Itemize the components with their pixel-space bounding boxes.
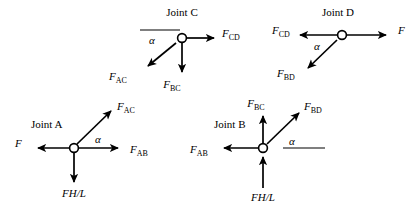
joint-a-angle-label: α: [95, 133, 101, 145]
joint-d-node: [338, 31, 347, 40]
joint-c-label-fac: FAC: [108, 70, 127, 85]
joint-a-group: Joint A α F FAB FAC FH/L: [14, 100, 148, 199]
joint-a-title: Joint A: [31, 118, 63, 130]
joint-b-label-fhl: FH/L: [250, 191, 275, 203]
joint-b-label-fbd: FBD: [303, 100, 322, 115]
joint-a-label-fab: FAB: [129, 143, 148, 158]
joint-c-label-fbc: FBC: [162, 78, 180, 93]
joint-d-title: Joint D: [322, 6, 354, 18]
joint-c-vector-fac: [148, 43, 176, 66]
joint-d-label-f: F: [397, 24, 405, 36]
joint-a-label-fhl: FH/L: [61, 187, 86, 199]
joint-a-label-f: F: [14, 137, 22, 149]
joint-b-title: Joint B: [214, 118, 245, 130]
joint-a-label-fac: FAC: [116, 100, 135, 115]
free-body-diagram-figure: Joint C α FCD FBC FAC Joint D: [0, 0, 419, 209]
joint-d-label-fbd: FBD: [276, 67, 295, 82]
joint-d-label-fcd: FCD: [271, 24, 290, 39]
joint-a-vector-fac: [77, 111, 111, 144]
diagram-canvas: Joint C α FCD FBC FAC Joint D: [0, 0, 419, 209]
joint-b-node: [259, 144, 268, 153]
joint-d-group: Joint D α F FCD FBD: [271, 6, 405, 82]
joint-a-node: [70, 144, 79, 153]
joint-d-angle-label: α: [314, 40, 320, 52]
joint-b-group: Joint B α FAB FBC FBD FH/L: [189, 97, 325, 203]
joint-c-node: [178, 34, 187, 43]
joint-d-vector-fbd: [308, 40, 337, 68]
joint-b-label-fab: FAB: [189, 143, 208, 158]
joint-b-label-fbc: FBC: [246, 97, 264, 112]
joint-c-group: Joint C α FCD FBC FAC: [108, 6, 240, 93]
joint-c-angle-label: α: [149, 34, 155, 46]
joint-c-title: Joint C: [166, 6, 197, 18]
joint-b-angle-label: α: [289, 135, 295, 147]
joint-c-label-fcd: FCD: [221, 27, 240, 42]
